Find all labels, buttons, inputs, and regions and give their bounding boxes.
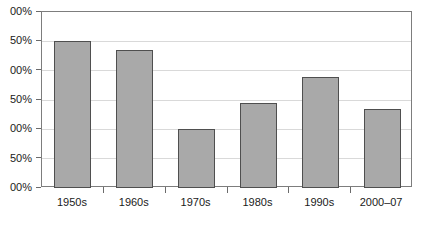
y-axis-label: 50% — [0, 34, 32, 46]
x-axis-label: 2000–07 — [360, 196, 403, 208]
y-axis-label: 00% — [0, 64, 32, 76]
y-axis-label: 00% — [0, 122, 32, 134]
x-axis-tick — [288, 187, 289, 193]
gridline — [42, 129, 411, 130]
gridline — [42, 41, 411, 42]
x-axis-tick — [350, 187, 351, 193]
bar — [116, 50, 153, 188]
bar — [54, 41, 91, 188]
gridline — [42, 100, 411, 101]
bar-chart: 00%50%00%50%00%50%00% 1950s1960s1970s198… — [0, 0, 425, 227]
y-axis-label: 50% — [0, 93, 32, 105]
x-axis-label: 1970s — [181, 196, 211, 208]
y-axis-label: 50% — [0, 152, 32, 164]
bar — [364, 109, 401, 188]
x-axis-tick — [227, 187, 228, 193]
y-axis-label: 00% — [0, 5, 32, 17]
bar — [302, 77, 339, 188]
gridline — [42, 158, 411, 159]
y-axis-label: 00% — [0, 181, 32, 193]
x-axis-tick — [165, 187, 166, 193]
bar — [178, 129, 215, 188]
gridline — [42, 70, 411, 71]
plot-area — [41, 11, 412, 187]
x-axis-label: 1960s — [119, 196, 149, 208]
x-axis-label: 1980s — [242, 196, 272, 208]
bar — [240, 103, 277, 188]
x-axis-label: 1990s — [304, 196, 334, 208]
x-axis-tick — [103, 187, 104, 193]
x-axis-label: 1950s — [57, 196, 87, 208]
